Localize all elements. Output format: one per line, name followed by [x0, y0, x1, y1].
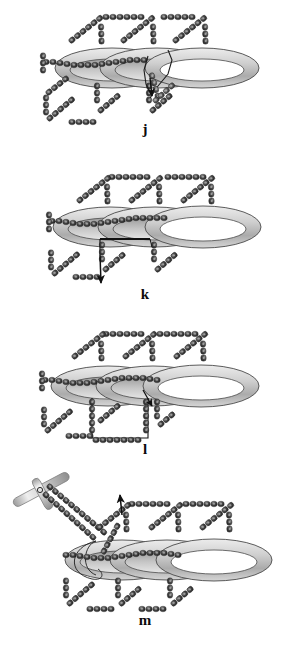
direction-arrow-icon [100, 255, 101, 283]
ring-3 [143, 365, 259, 407]
chain-lower-v [48, 242, 178, 280]
t-handle-tool [12, 471, 71, 511]
panel-label-m: m [0, 613, 290, 628]
panel-k-diagram [0, 155, 290, 305]
panel-label-k: k [0, 287, 290, 302]
chain-left-vertical [39, 371, 44, 391]
chain-lower-v [63, 578, 194, 612]
chain-left-vertical [46, 212, 51, 232]
panel-j: j [0, 0, 290, 150]
chain-pulled-by-handle [42, 483, 108, 541]
panel-l: l [0, 310, 290, 460]
ring-3 [145, 206, 261, 248]
ring-3 [156, 539, 272, 581]
panel-m: m [0, 455, 290, 650]
panel-l-diagram [0, 310, 290, 460]
panel-label-j: j [0, 122, 290, 137]
ring-group [55, 48, 259, 88]
ring-3 [145, 48, 259, 88]
figure-root: j [0, 0, 290, 650]
panel-k: k [0, 155, 290, 305]
ring-group [53, 206, 261, 248]
